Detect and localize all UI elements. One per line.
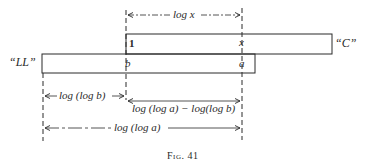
c-scale-name: “C”: [335, 36, 356, 51]
dim-log-x-label: log x: [173, 8, 195, 20]
ll-scale-name: “LL”: [9, 55, 36, 70]
ll-scale-bar: [42, 54, 255, 73]
slide-rule-diagram: [0, 0, 367, 167]
c-scale-bar: [126, 34, 332, 54]
c-scale-right-mark: x: [239, 36, 244, 48]
dim-loglog-a-label: log (log a): [114, 121, 160, 133]
figure-caption: Fig. 41: [167, 150, 198, 161]
ll-scale-left-mark: b: [125, 57, 131, 69]
dim-loglogb-label: log (log b): [59, 89, 105, 101]
c-scale-left-mark: 1: [129, 37, 135, 49]
dim-difference-label: log (log a) − log(log b): [132, 102, 235, 114]
ll-scale-right-mark: a: [239, 57, 245, 69]
